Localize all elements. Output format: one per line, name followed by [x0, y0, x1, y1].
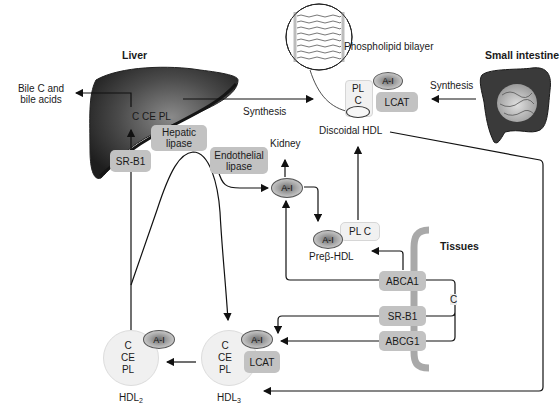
bile-line1: Bile C and: [10, 83, 72, 94]
hepatic-line1: Hepatic: [162, 127, 196, 138]
prebeta-prefix: Pre: [309, 251, 325, 262]
phospholipid-bilayer-magnified: [286, 4, 352, 112]
small-intestine-label: Small intestine: [485, 50, 559, 61]
discoidal-hdl-label: Discoidal HDL: [319, 125, 382, 136]
discoidal-pl: PL: [349, 83, 367, 95]
srb1-transporter: SR-B1: [379, 306, 426, 326]
hdl2-label-text: HDL: [119, 392, 139, 403]
small-intestine-shape: [480, 68, 550, 143]
hdl3-label: HDL3: [217, 392, 241, 406]
prebeta-apoa1: A-I: [313, 230, 343, 249]
prebeta-hdl-label: Preβ-HDL: [309, 251, 354, 262]
hdl3-label-text: HDL: [217, 392, 237, 403]
liver-synthesis-label: Synthesis: [243, 106, 286, 117]
hdl3-pl: PL: [215, 364, 235, 376]
hdl2-apoa1: A-I: [143, 330, 175, 349]
abca1-transporter: ABCA1: [379, 271, 426, 291]
hdl2-ce: CE: [118, 352, 138, 364]
hdl3-lcat: LCAT: [244, 351, 280, 373]
tissue-cholesterol-label: C: [450, 294, 457, 305]
discoidal-phospholipid-oval: [346, 106, 370, 118]
liver-contents: C CE PL: [132, 111, 171, 122]
hdl3-c: C: [215, 340, 235, 352]
intestine-synthesis-label: Synthesis: [430, 80, 473, 91]
hepatic-line2: lipase: [162, 138, 196, 149]
hdl3-label-sub: 3: [237, 397, 241, 404]
hdl2-label-sub: 2: [139, 397, 143, 404]
hdl3-ce: CE: [215, 352, 235, 364]
discoidal-apoa1: A-I: [373, 72, 403, 90]
liver-srb1-box: SR-B1: [110, 150, 151, 172]
discoidal-lcat: LCAT: [376, 92, 418, 112]
discoidal-hdl-lipids: PL C: [349, 83, 367, 107]
free-apoa1: A-I: [271, 178, 303, 198]
endothelial-line2: lipase: [214, 161, 263, 172]
bile-line2: bile acids: [10, 94, 72, 105]
prebeta-suffix: -HDL: [330, 251, 353, 262]
hdl2-label: HDL2: [119, 392, 143, 406]
hdl2-pl: PL: [118, 364, 138, 376]
endothelial-line1: Endothelial: [214, 150, 263, 161]
hdl2-contents: C CE PL: [118, 340, 138, 376]
prebeta-lipid-box: PL C: [340, 222, 380, 241]
tissues-label: Tissues: [440, 241, 479, 252]
hdl2-c: C: [118, 340, 138, 352]
pathway-arrows: [0, 0, 560, 415]
abcg1-transporter: ABCG1: [379, 331, 426, 351]
hdl3-contents: C CE PL: [215, 340, 235, 376]
hepatic-lipase-box: Hepaticlipase: [151, 125, 207, 151]
hdl3-apoa1: A-I: [241, 330, 273, 349]
phospholipid-bilayer-label: Phospholipid bilayer: [344, 41, 434, 52]
bile-label: Bile C and bile acids: [10, 83, 72, 105]
endothelial-lipase-box: Endotheliallipase: [210, 147, 268, 174]
kidney-label: Kidney: [270, 138, 301, 149]
liver-label: Liver: [122, 50, 147, 61]
